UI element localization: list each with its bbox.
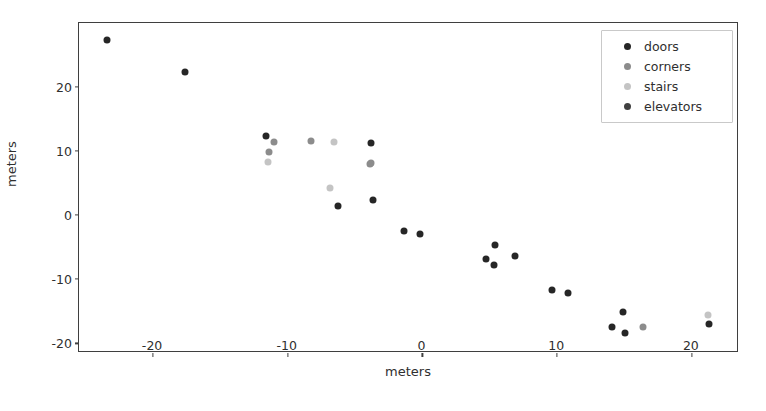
legend-item-corners[interactable]: corners: [610, 56, 724, 76]
y-tick-mark: [75, 279, 79, 280]
data-point-doors: [369, 196, 376, 203]
y-tick-label: 0: [64, 208, 72, 223]
data-point-doors: [263, 132, 270, 139]
x-axis-label: meters: [78, 364, 738, 379]
y-tick-label: 10: [56, 144, 72, 159]
data-point-doors: [564, 290, 571, 297]
x-tick-mark: [152, 353, 153, 357]
data-point-doors: [416, 230, 423, 237]
x-tick-mark: [422, 353, 423, 357]
y-tick-label: 20: [56, 80, 72, 95]
legend-item-label: elevators: [644, 99, 702, 114]
y-tick-mark: [75, 151, 79, 152]
data-point-doors: [609, 323, 616, 330]
data-point-doors: [400, 227, 407, 234]
x-tick-label: -20: [142, 338, 162, 353]
legend: doorscornersstairselevators: [601, 30, 733, 123]
data-point-doors: [512, 252, 519, 259]
x-tick-mark: [691, 353, 692, 357]
data-point-doors: [706, 320, 713, 327]
scatter-plot-figure: meters 20100-10-20 -20-1001020 meters do…: [0, 0, 766, 411]
x-tick-label: 0: [417, 338, 425, 353]
data-point-stairs: [330, 138, 337, 145]
x-tick-label: 10: [548, 338, 564, 353]
data-point-doors: [182, 68, 189, 75]
x-tick-label: -10: [277, 338, 297, 353]
legend-item-doors[interactable]: doors: [610, 36, 724, 56]
legend-item-label: corners: [644, 59, 691, 74]
data-point-corners: [368, 160, 375, 167]
legend-marker-icon: [610, 63, 644, 70]
data-point-doors: [621, 330, 628, 337]
data-point-stairs: [705, 311, 712, 318]
y-tick-mark: [75, 86, 79, 87]
y-tick-label: -10: [52, 272, 72, 287]
data-point-doors: [368, 139, 375, 146]
data-point-doors: [548, 287, 555, 294]
legend-marker-icon: [610, 103, 644, 110]
data-point-corners: [265, 148, 272, 155]
data-point-doors: [482, 255, 489, 262]
y-tick-label: -20: [52, 336, 72, 351]
legend-item-label: doors: [644, 39, 679, 54]
legend-marker-icon: [610, 43, 644, 50]
data-point-stairs: [326, 185, 333, 192]
legend-item-stairs[interactable]: stairs: [610, 76, 724, 96]
data-point-corners: [307, 137, 314, 144]
data-point-doors: [490, 261, 497, 268]
data-point-corners: [640, 323, 647, 330]
data-point-stairs: [264, 159, 271, 166]
data-point-doors: [620, 308, 627, 315]
x-tick-label: 20: [683, 338, 699, 353]
legend-marker-icon: [610, 83, 644, 90]
legend-item-label: stairs: [644, 79, 678, 94]
data-point-corners: [271, 139, 278, 146]
data-point-doors: [492, 242, 499, 249]
data-point-doors: [334, 202, 341, 209]
y-tick-mark: [75, 343, 79, 344]
x-tick-mark: [287, 353, 288, 357]
y-tick-mark: [75, 215, 79, 216]
y-axis-label: meters: [4, 141, 19, 187]
legend-item-elevators[interactable]: elevators: [610, 96, 724, 116]
x-tick-mark: [557, 353, 558, 357]
data-point-doors: [104, 36, 111, 43]
